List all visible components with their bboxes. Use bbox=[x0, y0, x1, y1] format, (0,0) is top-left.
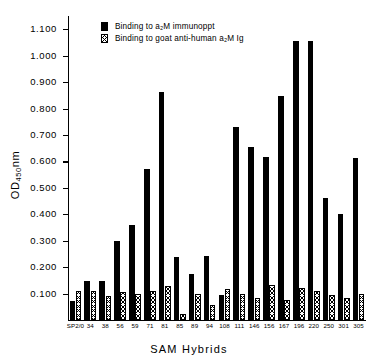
x-axis-tick-label: 220 bbox=[309, 323, 320, 329]
bar-immunoppt bbox=[338, 214, 344, 320]
bar-goat-anti-human bbox=[165, 286, 171, 320]
bar-goat-anti-human bbox=[120, 292, 126, 320]
legend-entry-immunoppt: Binding to a₂M immunoppt bbox=[101, 21, 244, 33]
x-axis-tick-label: 89 bbox=[191, 323, 198, 329]
x-axis-tick-label: 94 bbox=[206, 323, 213, 329]
bar-immunoppt bbox=[323, 198, 329, 320]
bar-immunoppt bbox=[353, 158, 359, 320]
bar-immunoppt bbox=[233, 127, 239, 320]
bar-immunoppt bbox=[70, 301, 76, 320]
legend-swatch-solid-icon bbox=[101, 22, 108, 31]
bar-immunoppt bbox=[278, 96, 284, 320]
bar-group bbox=[321, 16, 336, 320]
bar-goat-anti-human bbox=[255, 298, 261, 320]
bar-group bbox=[232, 16, 247, 320]
bar-immunoppt bbox=[308, 41, 314, 320]
bar-immunoppt bbox=[204, 256, 210, 320]
y-axis-tick-label: 1.000 bbox=[0, 51, 57, 61]
bar-immunoppt bbox=[144, 169, 150, 320]
x-axis-title: SAM Hybrids bbox=[0, 343, 378, 355]
bar-goat-anti-human bbox=[76, 291, 82, 320]
bar-group bbox=[306, 16, 321, 320]
bar-goat-anti-human bbox=[135, 294, 141, 320]
bar-goat-anti-human bbox=[106, 296, 112, 320]
y-axis-tick-label: 0.100 bbox=[0, 289, 57, 299]
bar-immunoppt bbox=[174, 257, 180, 320]
x-axis-tick-label: 250 bbox=[323, 323, 334, 329]
bar-group bbox=[247, 16, 262, 320]
x-axis-tick-label: 111 bbox=[234, 323, 244, 329]
chart-figure: 0.1000.2000.3000.4000.5000.6000.7000.800… bbox=[0, 0, 378, 363]
y-axis-tick-label: 1.100 bbox=[0, 24, 57, 34]
bar-group bbox=[172, 16, 187, 320]
x-axis-tick-label: 167 bbox=[279, 323, 290, 329]
x-axis-tick-label: 196 bbox=[294, 323, 305, 329]
bar-immunoppt bbox=[99, 281, 105, 320]
y-axis-tick-label: 0.800 bbox=[0, 104, 57, 114]
x-axis-tick-label: 146 bbox=[249, 323, 260, 329]
x-axis-tick-label: 38 bbox=[102, 323, 109, 329]
bar-goat-anti-human bbox=[210, 305, 216, 320]
bar-group bbox=[128, 16, 143, 320]
bar-goat-anti-human bbox=[180, 314, 186, 320]
y-axis-tick-label: 0.700 bbox=[0, 130, 57, 140]
legend-entry-goat-anti-human: Binding to goat anti-human a₂M Ig bbox=[101, 33, 244, 45]
bar-immunoppt bbox=[189, 274, 195, 320]
bar-group bbox=[157, 16, 172, 320]
bar-goat-anti-human bbox=[359, 294, 365, 320]
bar-group bbox=[68, 16, 83, 320]
bar-goat-anti-human bbox=[344, 298, 350, 320]
bar-immunoppt bbox=[159, 92, 165, 320]
bar-group bbox=[336, 16, 351, 320]
x-axis-tick-label: 85 bbox=[176, 323, 183, 329]
x-axis-tick-label: 156 bbox=[264, 323, 275, 329]
bar-immunoppt bbox=[84, 281, 90, 320]
bar-group bbox=[83, 16, 98, 320]
bar-goat-anti-human bbox=[195, 294, 201, 320]
bar-immunoppt bbox=[219, 295, 225, 320]
chart-legend: Binding to a₂M immunoppt Binding to goat… bbox=[101, 21, 244, 44]
legend-swatch-hatched-icon bbox=[101, 34, 108, 43]
legend-label-immunoppt: Binding to a₂M immunoppt bbox=[115, 21, 215, 33]
bar-immunoppt bbox=[263, 157, 269, 320]
legend-label-goat-anti-human: Binding to goat anti-human a₂M Ig bbox=[115, 33, 244, 45]
bar-goat-anti-human bbox=[299, 288, 305, 320]
bar-goat-anti-human bbox=[284, 300, 290, 320]
x-axis-tick-label: 305 bbox=[353, 323, 364, 329]
bar-immunoppt bbox=[114, 241, 120, 320]
bar-group bbox=[351, 16, 366, 320]
x-axis-tick-label: 108 bbox=[219, 323, 230, 329]
x-axis-tick-label: 71 bbox=[146, 323, 153, 329]
bar-goat-anti-human bbox=[91, 291, 97, 320]
bar-immunoppt bbox=[129, 225, 135, 320]
bar-group bbox=[113, 16, 128, 320]
bar-goat-anti-human bbox=[314, 291, 320, 320]
y-axis-tick-label: 0.400 bbox=[0, 210, 57, 220]
y-axis-tick-label: 0.300 bbox=[0, 236, 57, 246]
x-axis-tick-label: 301 bbox=[338, 323, 349, 329]
y-axis-tick-label: 0.900 bbox=[0, 77, 57, 87]
bar-group bbox=[277, 16, 292, 320]
bar-group bbox=[143, 16, 158, 320]
bar-immunoppt bbox=[248, 147, 254, 320]
bar-group bbox=[202, 16, 217, 320]
x-axis-tick-label: 56 bbox=[117, 323, 124, 329]
y-axis-tick-label: 0.200 bbox=[0, 262, 57, 272]
bar-goat-anti-human bbox=[225, 289, 231, 320]
y-axis-title: OD450nm bbox=[9, 151, 23, 200]
x-axis-tick-label: 81 bbox=[161, 323, 168, 329]
bar-group bbox=[262, 16, 277, 320]
bar-group bbox=[187, 16, 202, 320]
x-axis-line bbox=[68, 320, 366, 321]
bar-goat-anti-human bbox=[240, 294, 246, 320]
x-axis-tick-label: 34 bbox=[87, 323, 94, 329]
bar-goat-anti-human bbox=[329, 295, 335, 320]
bar-goat-anti-human bbox=[269, 285, 275, 320]
bar-group bbox=[98, 16, 113, 320]
x-axis-tick-label: SP2/0 bbox=[67, 323, 84, 329]
bar-goat-anti-human bbox=[150, 291, 156, 320]
x-axis-tick-label: 59 bbox=[132, 323, 139, 329]
bar-immunoppt bbox=[293, 41, 299, 320]
bar-group bbox=[292, 16, 307, 320]
bar-group bbox=[217, 16, 232, 320]
